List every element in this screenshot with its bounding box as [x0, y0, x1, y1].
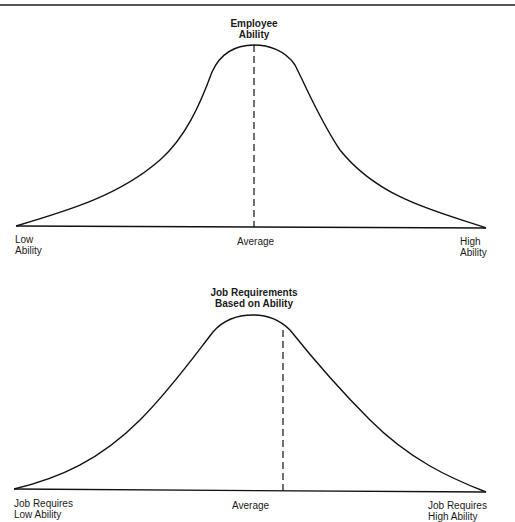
job-requirements-curve [14, 315, 486, 492]
employee-ability-curve [16, 45, 486, 228]
chart1-right-line1: High [460, 236, 487, 247]
chart1-left-line1: Low [15, 234, 42, 245]
diagram-canvas [0, 0, 515, 522]
chart2-center-label: Average [232, 500, 269, 511]
chart1-left-line2: Ability [15, 245, 42, 256]
chart1-title: Employee Ability [214, 18, 294, 40]
chart2-left-line1: Job Requires [14, 498, 73, 509]
chart2-right-line1: Job Requires [428, 500, 487, 511]
chart2-right-label: Job Requires High Ability [428, 500, 487, 522]
chart2-title-line2: Based on Ability [194, 298, 314, 309]
chart1-left-label: Low Ability [15, 234, 42, 256]
chart1-title-line2: Ability [214, 29, 294, 40]
chart1-center-label: Average [237, 236, 274, 247]
chart1-right-label: High Ability [460, 236, 487, 258]
chart1-title-line1: Employee [214, 18, 294, 29]
chart2-left-line2: Low Ability [14, 509, 73, 520]
chart2-title-line1: Job Requirements [194, 287, 314, 298]
chart2-title: Job Requirements Based on Ability [194, 287, 314, 309]
chart2-left-label: Job Requires Low Ability [14, 498, 73, 520]
chart1-right-line2: Ability [460, 247, 487, 258]
chart2-right-line2: High Ability [428, 511, 487, 522]
